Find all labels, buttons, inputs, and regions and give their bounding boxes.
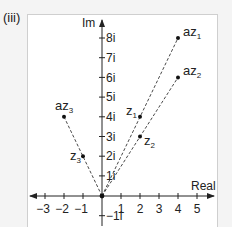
y-tick-label: 6i [106,71,115,85]
point-az3 [62,115,66,119]
x-tick-label: 4 [175,202,182,216]
y-tick-label: 2i [106,149,115,163]
point-z1 [138,115,142,119]
y-tick-label: 7i [106,51,115,65]
x-tick-label: 5 [194,202,201,216]
y-tick-label: 3i [106,130,115,144]
label-z2: z2 [144,133,156,150]
x-tick-label: 3 [156,202,163,216]
point-az1 [176,36,180,40]
argand-diagram: Im Real −3 −2 −1 1 2 3 4 5 8i 7i 6i 5i 4… [0,0,232,227]
x-tick-label: 2 [137,202,144,216]
label-az3: az3 [55,98,74,115]
point-z2 [138,135,142,139]
y-tick-label: 8i [106,31,115,45]
label-az1: az1 [183,24,202,41]
x-axis-label: Real [191,179,216,193]
y-tick-label: 4i [106,110,115,124]
y-tick-label: 5i [106,90,115,104]
x-tick-label: −1 [74,202,88,216]
y-tick-label: −1i [106,209,122,223]
point-z3 [81,154,85,158]
x-tick-label: −3 [36,202,50,216]
origin-point [100,194,105,199]
x-tick-label: −2 [55,202,69,216]
label-z1: z1 [126,103,138,120]
label-az2: az2 [183,63,202,80]
y-axis-label: Im [82,16,95,30]
point-az2 [176,75,180,79]
